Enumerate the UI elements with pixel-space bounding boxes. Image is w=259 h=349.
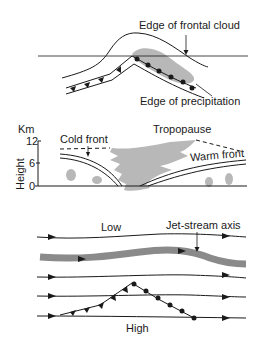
label-jet-axis: Jet-stream axis <box>166 220 241 231</box>
diagram-canvas <box>0 0 259 349</box>
axis-unit: Km <box>18 124 35 135</box>
frontal-cloud-mass <box>110 140 196 191</box>
cold-front-line-a <box>66 56 132 88</box>
streamline-2 <box>37 275 246 278</box>
label-cold-front: Cold front <box>60 134 108 145</box>
precipitation-area <box>132 48 194 84</box>
axis-label-height: Height <box>15 158 26 190</box>
tick-label-12: 12 <box>26 136 38 147</box>
streamline-3 <box>37 295 246 297</box>
panel-section <box>35 140 247 191</box>
cold-front-arrowhead <box>86 152 90 157</box>
tick-label-0: 0 <box>29 181 35 192</box>
low-cloud <box>66 169 76 181</box>
low-cloud <box>225 173 233 185</box>
label-cloud-edge: Edge of frontal cloud <box>139 20 240 31</box>
jet-stream-band <box>40 250 246 264</box>
label-high: High <box>126 323 149 334</box>
low-cloud <box>92 176 102 184</box>
streamline-4 <box>37 316 246 318</box>
cold-front-triangles <box>70 286 128 316</box>
tropopause-left <box>60 148 110 149</box>
cold-front-surface <box>60 283 132 315</box>
panel-jet <box>37 232 246 321</box>
warm-front-surface <box>132 283 196 319</box>
streamline-1 <box>37 234 246 238</box>
tick-label-6: 6 <box>29 158 35 169</box>
label-precip-edge: Edge of precipitation <box>140 96 240 107</box>
label-tropopause: Tropopause <box>153 124 211 135</box>
panel-plan <box>38 33 248 98</box>
label-low: Low <box>101 222 121 233</box>
